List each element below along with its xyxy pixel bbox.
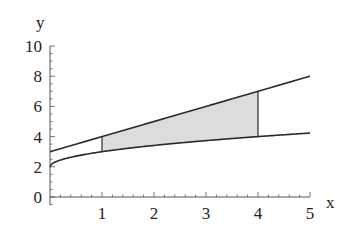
x-tick-label: 2 [150, 204, 159, 223]
y-tick-label: 2 [34, 158, 43, 177]
y-axis-label: y [36, 13, 45, 32]
y-tick-label: 0 [34, 188, 43, 207]
x-axis-label: x [326, 193, 335, 212]
area-between-curves-chart: 024681012345 x y [0, 0, 348, 242]
x-tick-label: 1 [98, 204, 107, 223]
y-tick-label: 8 [34, 67, 43, 86]
y-tick-label: 6 [34, 97, 43, 116]
x-tick-label: 4 [254, 204, 263, 223]
y-tick-label: 10 [25, 37, 42, 56]
x-tick-label: 5 [306, 204, 315, 223]
x-tick-label: 3 [202, 204, 211, 223]
y-tick-label: 4 [34, 128, 43, 147]
